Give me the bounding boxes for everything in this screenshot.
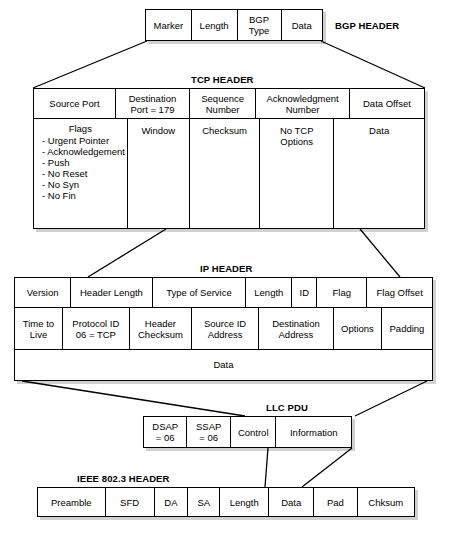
layer-llc: DSAP = 06 SSAP = 06 Control Information (143, 416, 352, 448)
field-mac-da: DA (155, 488, 189, 516)
connector-tcp-ip-left (88, 229, 166, 277)
field-tcp-flags-title: Flags (42, 123, 127, 134)
connector-bgp-tcp-left (33, 41, 147, 88)
field-mac-pad: Pad (314, 488, 357, 516)
field-tcp-window: Window (128, 119, 190, 228)
field-bgp-length: Length (192, 10, 238, 40)
field-mac-preamble: Preamble (38, 488, 106, 516)
connector-tcp-ip-right (360, 229, 400, 277)
connector-llc-mac-left (265, 448, 268, 487)
flag-no-fin: - No Fin (42, 190, 127, 201)
field-tcp-data-offset: Data Offset (350, 89, 424, 118)
field-tcp-no-options: No TCP Options (260, 119, 334, 228)
caption-llc-pdu: LLC PDU (266, 402, 308, 413)
caption-ip-header: IP HEADER (200, 263, 252, 274)
flag-acknowledgement: - Acknowledgement (42, 146, 127, 157)
field-ip-time-to-live: Time to Live (15, 308, 63, 349)
field-tcp-checksum: Checksum (190, 119, 260, 228)
field-ip-protocol-id: Protocol ID 06 = TCP (63, 308, 130, 349)
connector-bgp-tcp-right (321, 41, 425, 88)
field-tcp-destination-port: Destination Port = 179 (116, 89, 190, 118)
field-ip-id: ID (292, 278, 317, 307)
layer-ip: Version Header Length Type of Service Le… (14, 277, 433, 381)
flag-push: - Push (42, 157, 127, 168)
field-ip-source-address: Source ID Address (192, 308, 259, 349)
layer-mac: Preamble SFD DA SA Length Data Pad Chksu… (37, 487, 415, 517)
caption-bgp-header: BGP HEADER (335, 20, 399, 31)
field-tcp-flags: Flags - Urgent Pointer - Acknowledgement… (34, 119, 128, 228)
field-tcp-acknowledgment-number: Acknowledgment Number (256, 89, 350, 118)
layer-bgp: Marker Length BGP Type Data (145, 9, 323, 41)
field-ip-destination-address: Destination Address (259, 308, 334, 349)
connector-ip-llc-left (22, 381, 245, 416)
field-mac-sfd: SFD (106, 488, 155, 516)
field-bgp-marker: Marker (146, 10, 192, 40)
field-tcp-source-port: Source Port (34, 89, 116, 118)
connector-llc-mac-right (302, 448, 352, 487)
field-mac-data: Data (269, 488, 314, 516)
field-ip-header-checksum: Header Checksum (130, 308, 193, 349)
encapsulation-diagram: Marker Length BGP Type Data BGP HEADER T… (0, 0, 450, 539)
flag-no-reset: - No Reset (42, 168, 127, 179)
connector-ip-llc-right (355, 381, 427, 416)
field-llc-control: Control (231, 417, 277, 447)
caption-tcp-header: TCP HEADER (191, 74, 254, 85)
field-mac-length: Length (220, 488, 269, 516)
layer-tcp: Source Port Destination Port = 179 Seque… (33, 88, 425, 229)
field-ip-header-length: Header Length (71, 278, 152, 307)
field-tcp-data: Data (334, 119, 424, 228)
field-mac-chksum: Chksum (358, 488, 414, 516)
field-llc-dsap: DSAP = 06 (144, 417, 187, 447)
flag-no-syn: - No Syn (42, 179, 127, 190)
field-ip-flag-offset: Flag Offset (367, 278, 432, 307)
field-ip-type-of-service: Type of Service (153, 278, 247, 307)
field-ip-flag: Flag (317, 278, 367, 307)
field-tcp-sequence-number: Sequence Number (190, 89, 256, 118)
field-bgp-data: Data (282, 10, 323, 40)
field-bgp-type: BGP Type (238, 10, 282, 40)
caption-ieee-8023-header: IEEE 802.3 HEADER (77, 473, 170, 484)
flag-urgent-pointer: - Urgent Pointer (42, 135, 127, 146)
field-ip-padding: Padding (382, 308, 432, 349)
field-ip-length: Length (246, 278, 292, 307)
field-ip-data: Data (15, 350, 432, 379)
field-llc-ssap: SSAP = 06 (187, 417, 230, 447)
field-llc-information: Information (276, 417, 351, 447)
field-ip-options: Options (334, 308, 382, 349)
field-mac-sa: SA (188, 488, 220, 516)
field-ip-version: Version (15, 278, 71, 307)
